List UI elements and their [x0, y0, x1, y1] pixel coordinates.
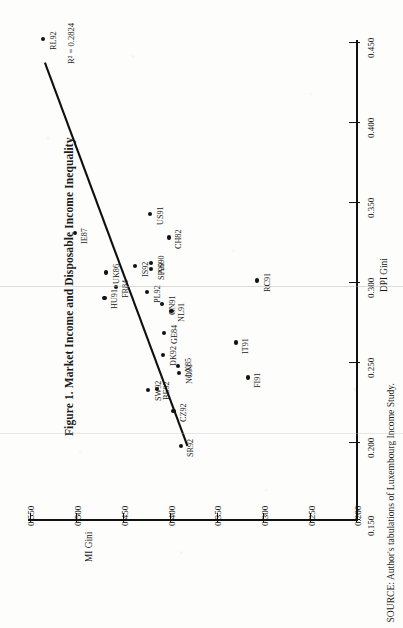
dpi-tick-0300: [349, 282, 360, 283]
trend-line: [0, 0, 403, 628]
data-point: [104, 270, 108, 274]
mi-tick-label-0200: 0.200: [353, 506, 363, 526]
data-point: [160, 302, 164, 306]
data-point-label: GE84: [170, 325, 179, 344]
dpi-tick-label-0250: 0.250: [366, 358, 376, 378]
dpi-tick-0250: [349, 362, 360, 363]
data-point: [145, 290, 149, 294]
dpi-tick-label-0200: 0.200: [366, 438, 376, 458]
data-point-label: NL91: [177, 303, 186, 322]
data-point: [102, 296, 106, 300]
data-point-label: SP90: [157, 263, 166, 280]
data-point-label: PL92: [153, 285, 162, 303]
dpi-tick-0200: [349, 442, 360, 443]
mi-tick-label-0400: 0.400: [167, 506, 177, 526]
data-point-label: IE87: [80, 228, 89, 244]
page-title: Figure 1. Market Income and Disposable I…: [63, 106, 75, 436]
data-point: [161, 353, 165, 357]
data-point-label: CZ92: [179, 403, 188, 422]
data-point-label: FR84: [121, 280, 130, 298]
dpi-gini-axis-title: DPI Gini: [379, 258, 389, 292]
data-point: [146, 388, 150, 392]
data-point-label: UK86: [112, 264, 121, 284]
data-point-label: US91: [156, 206, 165, 225]
data-point: [155, 387, 159, 391]
dpi-tick-0450: [349, 42, 360, 43]
dpi-tick-label-0450: 0.450: [366, 38, 376, 58]
data-point: [149, 267, 153, 271]
dpi-gini-axis-line: [356, 40, 358, 521]
data-point-label: RL92: [49, 31, 58, 50]
data-point: [41, 37, 45, 41]
data-point-label: CH82: [174, 229, 183, 249]
data-point: [234, 340, 238, 344]
dpi-tick-label-0350: 0.350: [366, 198, 376, 218]
mi-tick-label-0550: 0.550: [26, 506, 36, 526]
r-squared-annotation: R² = 0.2824: [66, 23, 76, 64]
dpi-tick-0400: [349, 122, 360, 123]
data-point: [176, 364, 180, 368]
data-point-label: NO91: [185, 364, 194, 384]
data-point-label: BE92: [162, 381, 171, 400]
dpi-tick-label-0300: 0.300: [366, 278, 376, 298]
data-point: [246, 375, 250, 379]
data-point: [177, 371, 181, 375]
data-point: [169, 309, 173, 313]
scatter-plot: 0.450 0.400 0.350 0.300 0.250 0.200 0.15…: [0, 0, 403, 628]
dpi-tick-label-0150: 0.150: [366, 516, 376, 536]
data-point: [255, 278, 259, 282]
source-note: SOURCE: Author's tabulations of Luxembou…: [385, 337, 396, 623]
data-point-label: HU91: [110, 289, 119, 309]
data-point: [171, 409, 175, 413]
mi-tick-label-0450: 0.450: [120, 506, 130, 526]
dpi-tick-label-0400: 0.400: [366, 118, 376, 138]
mi-tick-label-0250: 0.250: [307, 506, 317, 526]
data-point-label: SR92: [186, 439, 195, 457]
data-point-label: IT91: [241, 338, 250, 354]
dpi-tick-0350: [349, 202, 360, 203]
data-point: [133, 264, 137, 268]
data-point-label: RC91: [263, 272, 272, 291]
data-point-label: DK92: [169, 346, 178, 366]
data-point: [148, 212, 152, 216]
mi-gini-axis-title: MI Gini: [84, 532, 94, 562]
data-point: [167, 235, 171, 239]
data-point: [114, 285, 118, 289]
data-point: [149, 261, 153, 265]
data-point: [162, 331, 166, 335]
mi-tick-label-0300: 0.300: [260, 506, 270, 526]
data-point: [179, 444, 183, 448]
mi-tick-label-0350: 0.350: [213, 506, 223, 526]
mi-tick-label-0500: 0.500: [73, 506, 83, 526]
data-point-label: FI91: [253, 373, 262, 388]
